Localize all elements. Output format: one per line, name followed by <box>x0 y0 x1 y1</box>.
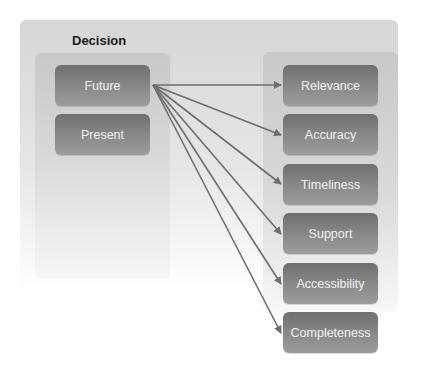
arrow-future-timeliness <box>153 85 281 184</box>
arrow-future-support <box>153 85 281 234</box>
connection-arrows <box>0 0 430 376</box>
arrow-future-completeness <box>153 85 281 333</box>
arrow-future-accuracy <box>153 85 281 135</box>
arrow-future-accessibility <box>153 85 281 284</box>
